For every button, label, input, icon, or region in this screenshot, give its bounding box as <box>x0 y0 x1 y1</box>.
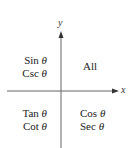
x-axis-label: x <box>121 84 125 95</box>
quadrant-2-line-2: Csc θ <box>14 67 47 79</box>
function-name: Sec <box>80 120 96 132</box>
theta-symbol: θ <box>42 54 47 66</box>
function-name: Csc <box>22 67 39 79</box>
quadrant-3-line-2: Cot θ <box>14 120 47 132</box>
y-axis-arrow-icon <box>59 31 64 38</box>
function-name: Cos <box>80 107 97 119</box>
quadrant-4-line-2: Sec θ <box>80 120 104 132</box>
theta-symbol: θ <box>100 107 105 119</box>
theta-symbol: θ <box>99 120 104 132</box>
quadrant-4-line-1: Cos θ <box>80 107 105 119</box>
function-name: Tan <box>23 107 39 119</box>
theta-symbol: θ <box>42 107 47 119</box>
quadrant-1-label: All <box>83 60 97 72</box>
quadrant-3-line-1: Tan θ <box>14 107 47 119</box>
theta-symbol: θ <box>42 67 47 79</box>
y-axis-label: y <box>58 17 62 28</box>
function-name: Cot <box>23 120 39 132</box>
function-name: Sin <box>24 54 39 66</box>
theta-symbol: θ <box>42 120 47 132</box>
quadrant-2-line-1: Sin θ <box>14 54 47 66</box>
x-axis-arrow-icon <box>112 89 119 94</box>
